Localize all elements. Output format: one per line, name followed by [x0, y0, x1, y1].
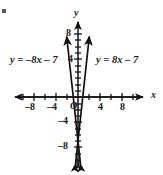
x-tick-label-neg4: –4	[47, 102, 57, 112]
y-axis-label: y	[74, 8, 78, 18]
x-tick-label-8: 8	[120, 102, 125, 112]
graph-figure: y x –8 –4 O 4 8 8 4 –4 –8 y = –8x – 7 y …	[0, 0, 163, 175]
x-axis-label: x	[151, 90, 156, 100]
equation-label-negative-slope: y = –8x – 7	[10, 55, 57, 66]
equation-label-positive-slope: y = 8x – 7	[96, 55, 138, 66]
origin-label: O	[70, 101, 77, 111]
y-tick-label-4: 4	[68, 54, 73, 64]
x-tick-label-neg8: –8	[25, 102, 35, 112]
coordinate-plane	[0, 0, 163, 175]
x-axis	[15, 93, 143, 101]
x-tick-label-4: 4	[98, 102, 103, 112]
y-tick-label-neg4: –4	[58, 116, 68, 126]
y-tick-label-neg8: –8	[58, 141, 68, 151]
y-tick-label-8: 8	[66, 28, 71, 38]
